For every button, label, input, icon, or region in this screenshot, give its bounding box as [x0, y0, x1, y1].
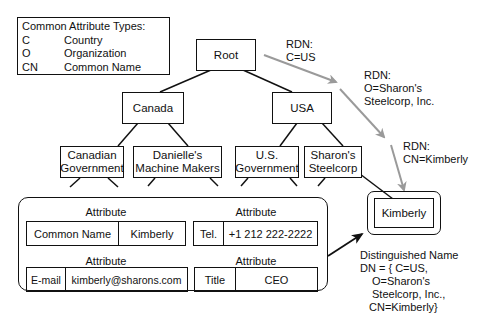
node-label: Kimberly — [382, 207, 427, 220]
attribute-value: Kimberly — [118, 222, 185, 245]
attribute-telephone: Tel. +1 212 222-2222 — [193, 221, 318, 246]
rdn-label-organization: RDN: O=Sharon's Steelcorp, Inc. — [364, 69, 434, 108]
node-kimberly: Kimberly — [374, 198, 434, 228]
distinguished-name: Distinguished Name DN = { C=US, O=Sharon… — [360, 249, 458, 314]
attribute-types-legend: Common Attribute Types: C Country O Orga… — [17, 17, 170, 75]
node-label: USA — [290, 102, 314, 115]
legend-meaning: Country — [64, 34, 103, 48]
node-label-line1: U.S. — [256, 149, 278, 162]
rdn-label-line: Steelcorp, Inc. — [364, 95, 434, 108]
node-usa: USA — [272, 92, 332, 124]
legend-row: CN Common Name — [22, 61, 169, 75]
node-label: Canada — [133, 102, 173, 115]
node-canadian-government: Canadian Government — [60, 146, 124, 178]
attribute-heading: Attribute — [26, 206, 186, 218]
node-label-line2: Government — [235, 162, 298, 175]
node-label-line1: Danielle's — [153, 149, 203, 162]
dn-line: O=Sharon's — [360, 275, 458, 288]
node-label: Root — [214, 49, 238, 62]
attribute-type: Title — [195, 268, 235, 291]
legend-title: Common Attribute Types: — [22, 20, 169, 34]
rdn-label-line: RDN: — [364, 69, 434, 82]
node-label-line1: Canadian — [67, 149, 116, 162]
attribute-value: +1 212 222-2222 — [223, 222, 317, 245]
legend-row: O Organization — [22, 47, 169, 61]
attribute-title: Title CEO — [194, 267, 318, 292]
node-label-line1: Sharon's — [310, 149, 355, 162]
node-sharons-steelcorp: Sharon's Steelcorp — [304, 146, 362, 178]
attribute-heading: Attribute — [193, 206, 319, 218]
node-label-line2: Steelcorp — [309, 162, 358, 175]
legend-meaning: Organization — [64, 47, 126, 61]
rdn-label-line: CN=Kimberly — [403, 153, 468, 166]
node-danielles-machine-makers: Danielle's Machine Makers — [133, 146, 222, 178]
attribute-type: Tel. — [194, 222, 223, 245]
dn-line: DN = { C=US, — [360, 262, 458, 275]
node-canada: Canada — [122, 92, 184, 124]
attribute-heading: Attribute — [26, 255, 186, 267]
legend-meaning: Common Name — [64, 61, 141, 75]
node-root: Root — [196, 39, 256, 71]
rdn-label-line: RDN: — [403, 140, 468, 153]
attribute-common-name: Common Name Kimberly — [26, 221, 186, 246]
rdn-label-line: RDN: — [286, 38, 316, 51]
dn-title: Distinguished Name — [360, 249, 458, 262]
rdn-label-line: C=US — [286, 51, 316, 64]
attribute-heading: Attribute — [193, 255, 319, 267]
dn-line: Steelcorp, Inc., — [360, 288, 458, 301]
dn-line: CN=Kimberly} — [360, 301, 458, 314]
rdn-label-line: O=Sharon's — [364, 82, 434, 95]
legend-abbr: C — [22, 34, 64, 48]
rdn-label-common-name: RDN: CN=Kimberly — [403, 140, 468, 166]
legend-abbr: CN — [22, 61, 64, 75]
attribute-type: Common Name — [27, 222, 118, 245]
ldap-directory-diagram: Common Attribute Types: C Country O Orga… — [0, 0, 483, 328]
legend-row: C Country — [22, 34, 169, 48]
rdn-label-country: RDN: C=US — [286, 38, 316, 64]
node-label-line2: Machine Makers — [135, 162, 219, 175]
attribute-value: CEO — [235, 268, 317, 291]
node-label-line2: Government — [60, 162, 123, 175]
attribute-email: E-mail kimberly@sharons.com — [26, 267, 188, 292]
attribute-value: kimberly@sharons.com — [65, 268, 187, 291]
node-us-government: U.S. Government — [235, 146, 299, 178]
legend-abbr: O — [22, 47, 64, 61]
attribute-type: E-mail — [27, 268, 65, 291]
